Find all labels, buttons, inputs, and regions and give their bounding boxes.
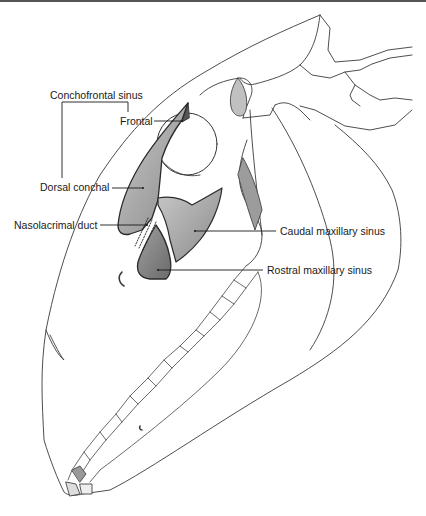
mental-foramen [140, 426, 142, 430]
incisors [66, 466, 92, 496]
label-dorsal-conchal: Dorsal conchal [40, 181, 109, 193]
infraorbital-foramen [119, 272, 124, 286]
label-caudal-maxillary-sinus: Caudal maxillary sinus [280, 225, 385, 237]
diagram-canvas: Conchofrontal sinus Frontal Dorsal conch… [0, 0, 426, 516]
label-nasolacrimal-duct: Nasolacrimal duct [14, 219, 97, 231]
label-rostral-maxillary-sinus: Rostral maxillary sinus [267, 264, 372, 276]
horse-skull-drawing [0, 0, 426, 516]
cheek-teeth [68, 266, 262, 482]
rostral-maxillary-sinus [138, 225, 171, 279]
label-conchofrontal-sinus: Conchofrontal sinus [50, 89, 143, 101]
conchofrontal-bracket [62, 102, 128, 178]
nasoincisive-notch [46, 330, 64, 360]
label-frontal: Frontal [120, 115, 153, 127]
skull-outline [42, 15, 412, 495]
